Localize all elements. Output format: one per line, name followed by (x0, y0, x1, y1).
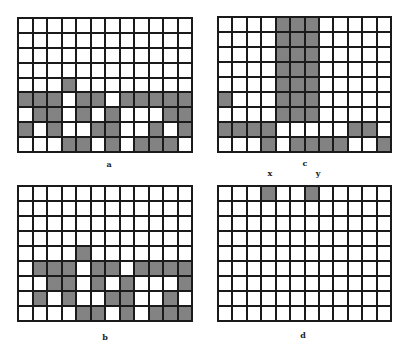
grid-cell (179, 247, 194, 262)
grid-cell (77, 277, 92, 292)
grid-cell (121, 232, 136, 247)
grid-cell (378, 232, 392, 247)
grid-cell (334, 93, 348, 108)
shaded-cell (106, 138, 121, 153)
grid-cell (219, 138, 233, 153)
grid-cell (320, 262, 334, 277)
grid-cell (320, 247, 334, 262)
grid-cell (121, 34, 136, 49)
grid-cell (306, 247, 320, 262)
shaded-cell (106, 262, 121, 277)
shaded-cell (164, 93, 179, 108)
grid-cell (19, 108, 34, 123)
grid-cell (262, 232, 276, 247)
grid-cell (92, 19, 107, 34)
grid-cell (77, 19, 92, 34)
grid-cell (277, 232, 291, 247)
shaded-cell (92, 93, 107, 108)
grid-cell (334, 217, 348, 232)
grid-cell (262, 78, 276, 93)
grid-cell (248, 202, 262, 217)
shaded-cell (19, 93, 34, 108)
grid-cell (34, 79, 49, 94)
shaded-cell (179, 108, 194, 123)
grid-cell (150, 34, 165, 49)
grid-cell (334, 18, 348, 33)
shaded-cell (92, 123, 107, 138)
grid-cell (378, 307, 392, 322)
grid-a-label: a (106, 159, 111, 169)
shaded-cell (277, 48, 291, 63)
grid-cell (334, 232, 348, 247)
shaded-cell (291, 48, 305, 63)
grid-cell (92, 79, 107, 94)
grid-cell (164, 34, 179, 49)
grid-cell (77, 34, 92, 49)
shaded-cell (306, 48, 320, 63)
grid-cell (349, 63, 363, 78)
grid-cell (219, 48, 233, 63)
grid-cell (363, 63, 377, 78)
grid-cell (63, 202, 78, 217)
shaded-cell (179, 277, 194, 292)
grid-a (17, 17, 193, 153)
grid-cell (248, 187, 262, 202)
grid-cell (233, 78, 247, 93)
grid-cell (179, 217, 194, 232)
shaded-cell (164, 292, 179, 307)
grid-c-label: c (303, 158, 308, 168)
grid-cell (77, 49, 92, 64)
grid-cell (349, 138, 363, 153)
shaded-cell (77, 108, 92, 123)
grid-cell (363, 262, 377, 277)
grid-cell (106, 19, 121, 34)
grid-cell (334, 78, 348, 93)
shaded-cell (277, 108, 291, 123)
grid-cell (63, 49, 78, 64)
grid-cell (92, 138, 107, 153)
grid-cell (291, 292, 305, 307)
shaded-cell (92, 262, 107, 277)
grid-cell (179, 49, 194, 64)
grid-cell (63, 93, 78, 108)
shaded-cell (34, 292, 49, 307)
shaded-cell (150, 138, 165, 153)
grid-cell (306, 292, 320, 307)
grid-cell (77, 123, 92, 138)
grid-cell (320, 33, 334, 48)
grid-cell (19, 19, 34, 34)
grid-cell (334, 307, 348, 322)
shaded-cell (306, 108, 320, 123)
grid-cell (179, 79, 194, 94)
grid-cell (306, 232, 320, 247)
shaded-cell (106, 123, 121, 138)
shaded-cell (150, 262, 165, 277)
shaded-cell (48, 123, 63, 138)
grid-cell (306, 307, 320, 322)
grid-cell (19, 277, 34, 292)
grid-cell (248, 48, 262, 63)
grid-cell (363, 277, 377, 292)
shaded-cell (320, 138, 334, 153)
grid-cell (121, 202, 136, 217)
grid-cell (135, 202, 150, 217)
grid-cell (48, 19, 63, 34)
shaded-cell (121, 292, 136, 307)
grid-cell (219, 187, 233, 202)
grid-cell (320, 48, 334, 63)
grid-cell (121, 19, 136, 34)
grid-cell (248, 307, 262, 322)
grid-cell (248, 78, 262, 93)
grid-cell (106, 49, 121, 64)
grid-cell (34, 307, 49, 322)
grid-cell (135, 108, 150, 123)
grid-cell (48, 79, 63, 94)
shaded-cell (277, 33, 291, 48)
grid-cell (291, 217, 305, 232)
grid-cell (248, 18, 262, 33)
grid-cell (92, 187, 107, 202)
grid-cell (320, 123, 334, 138)
grid-cell (106, 202, 121, 217)
grid-cell (320, 232, 334, 247)
grid-cell (349, 48, 363, 63)
